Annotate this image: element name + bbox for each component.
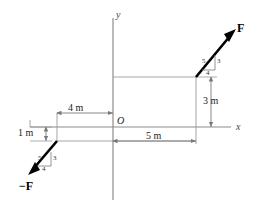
force-couple-diagram: y x O 4 m 1 m 3 m 5 m F −F 5 3 4 5 3 4 [0,0,263,214]
diagram-canvas [0,0,263,214]
force-negF-label: −F [19,180,33,192]
origin-label: O [117,116,124,126]
force-F-vector [196,29,236,77]
y-axis-label: y [116,10,120,20]
dimension-1m-label: 1 m [18,128,33,138]
dimension-1m [30,127,52,141]
dimension-3m-label: 3 m [203,96,218,106]
dimension-5m-label: 5 m [146,131,161,141]
force-negF-hypotenuse-label: 5 [38,155,42,162]
force-negF-horizontal-label: 4 [42,166,46,173]
axis-group [30,18,231,200]
x-axis-label: x [236,122,240,132]
force-F-label: F [237,22,244,34]
force-F-hypotenuse-label: 5 [202,58,206,65]
force-F-horizontal-label: 4 [206,70,210,77]
force-F-vertical-label: 3 [217,58,221,65]
force-negF-vertical-label: 3 [53,155,57,162]
dimension-4m-label: 4 m [68,103,83,113]
